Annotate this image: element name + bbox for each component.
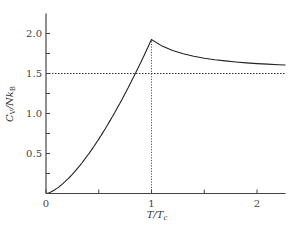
tick-labels: 0120.51.01.52.0: [26, 28, 260, 209]
y-tick-label: 0.5: [26, 148, 42, 159]
y-tick-label: 2.0: [26, 28, 42, 39]
y-axis-title: CV/NkB: [4, 86, 17, 122]
series-line: [46, 40, 286, 194]
x-tick-label: 0: [43, 198, 49, 209]
x-axis-title: T/Tc: [147, 209, 168, 222]
plot-area: [46, 40, 286, 194]
x-tick-label: 2: [254, 198, 260, 209]
chart: 0120.51.01.52.0 T/Tc CV/NkB: [0, 0, 296, 230]
y-tick-label: 1.0: [26, 108, 42, 119]
axes: [46, 14, 285, 194]
x-tick-label: 1: [148, 198, 154, 209]
y-tick-label: 1.5: [26, 68, 42, 79]
